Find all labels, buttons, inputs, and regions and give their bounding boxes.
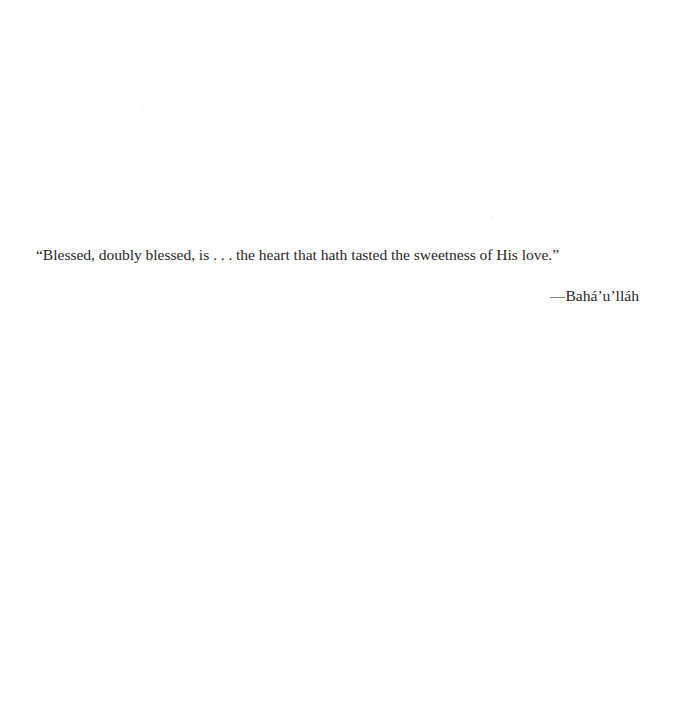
document-page: “Blessed, doubly blessed, is . . . the h… xyxy=(0,0,688,723)
scan-artifact xyxy=(491,216,492,220)
epigraph-attribution: —Bahá’u’lláh xyxy=(550,286,639,306)
epigraph-quote: “Blessed, doubly blessed, is . . . the h… xyxy=(36,245,656,265)
scan-artifact xyxy=(142,107,143,111)
